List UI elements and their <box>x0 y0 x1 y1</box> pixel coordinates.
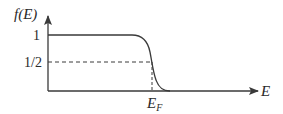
fermi-energy-label-main: E <box>146 95 156 111</box>
y-axis-label: f(E) <box>14 6 37 23</box>
fermi-dirac-diagram: f(E) 1 1/2 EF E <box>0 0 283 114</box>
y-tick-label-1: 1 <box>33 28 40 43</box>
y-tick-label-half: 1/2 <box>24 55 42 70</box>
fermi-energy-label: EF <box>146 95 163 113</box>
x-axis-label: E <box>260 83 270 99</box>
fermi-energy-label-subscript: F <box>155 102 163 113</box>
